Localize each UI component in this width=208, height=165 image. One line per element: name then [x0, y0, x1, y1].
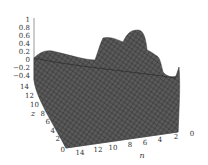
tick-n-0: 0 — [190, 130, 194, 138]
tick-z-4: 4 — [51, 127, 56, 135]
tick-v-0.8: 0.8 — [19, 24, 30, 32]
tick-v-0.4: 0.4 — [19, 40, 31, 48]
tick-v-0: 0 — [26, 56, 30, 64]
tick-n-2: 2 — [174, 133, 178, 141]
tick-z-6: 6 — [46, 118, 51, 126]
tick-n-12: 12 — [94, 146, 103, 154]
vertical-axis: 1 0.8 0.6 0.4 0.2 0 −0.2 −0.4 — [13, 16, 34, 80]
tick-n-10: 10 — [109, 144, 118, 152]
tick-z-8: 8 — [41, 110, 45, 118]
tick-n-14: 14 — [76, 149, 85, 157]
tick-v-0.6: 0.6 — [19, 32, 31, 40]
tick-v-neg0.4: −0.4 — [13, 72, 31, 80]
tick-v-neg0.2: −0.2 — [13, 64, 30, 72]
surface-plot: 1 0.8 0.6 0.4 0.2 0 −0.2 −0.4 14 12 10 8… — [0, 0, 208, 165]
horizontal-axis-label: n — [139, 151, 144, 160]
tick-v-1: 1 — [26, 16, 30, 24]
tick-z-10: 10 — [30, 101, 39, 109]
tick-n-4: 4 — [158, 136, 163, 144]
tick-z-2: 2 — [56, 135, 60, 143]
surface — [34, 30, 180, 148]
tick-n-8: 8 — [128, 141, 132, 149]
depth-axis-label: z — [30, 109, 36, 118]
tick-n-6: 6 — [143, 139, 148, 147]
tick-z-12: 12 — [25, 92, 34, 100]
tick-z-14: 14 — [20, 83, 29, 91]
tick-v-0.2: 0.2 — [19, 48, 30, 56]
tick-z-0: 0 — [61, 146, 65, 154]
